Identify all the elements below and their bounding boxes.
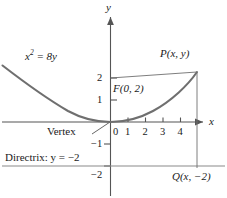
y-tick-label-1: 1 [97,95,102,106]
vertex-label: Vertex [47,126,76,137]
x-axis-arrow [195,119,203,126]
equation-remainder: = 8y [34,50,57,62]
vertex-leader-line [92,122,110,134]
y-axis-label: y [106,2,111,13]
focus-label: F(0, 2) [113,83,144,94]
y-tick-label-minus-2: −2 [91,170,102,181]
x-tick-label-0: 0 [113,127,118,138]
point-p-label: P(x, y) [160,48,189,59]
parabola-figure: y x 0 1 2 3 4 1 2 −1 −2 x2 = 8y Vertex F… [0,0,227,198]
x-tick-label-1: 1 [125,127,130,138]
y-axis-arrow [107,17,114,25]
y-tick-label-minus-1: −1 [91,139,102,150]
parabola-equation-label: x2 = 8y [25,49,57,62]
point-q-label: Q(x, −2) [172,171,211,182]
directrix-label: Directrix: y = −2 [5,152,79,163]
diagram-canvas [0,0,227,198]
focal-radius-segment [111,72,198,78]
x-tick-label-4: 4 [178,127,183,138]
y-tick-label-2: 2 [97,73,102,84]
x-tick-label-2: 2 [143,127,148,138]
x-tick-label-3: 3 [160,127,165,138]
x-axis-label: x [209,116,214,127]
